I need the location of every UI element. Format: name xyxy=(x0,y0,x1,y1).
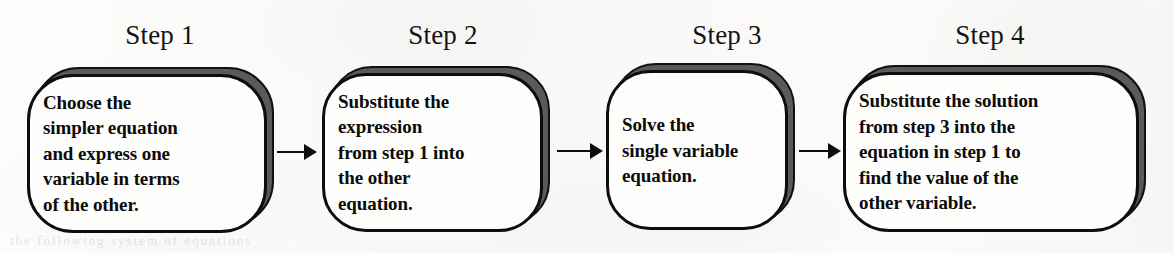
step-title-3: Step 3 xyxy=(692,22,761,49)
step-node-1-line: simpler equation xyxy=(43,115,256,141)
step-title-2: Step 2 xyxy=(408,22,477,49)
step-node-2-line: Substitute the xyxy=(338,89,532,115)
step-node-3-body: Solve the single variable equation. xyxy=(606,70,788,230)
step-node-1-line: Choose the xyxy=(43,90,256,116)
step-node-4-line: from step 3 into the xyxy=(859,114,1128,140)
step-node-2-text: Substitute the expression from step 1 in… xyxy=(338,89,532,217)
arrow-step-2-to-3 xyxy=(557,143,603,159)
step-node-1-line: variable in terms xyxy=(43,166,256,192)
step-node-4-line: Substitute the solution xyxy=(859,88,1128,114)
step-node-3: Solve the single variable equation. xyxy=(606,70,788,230)
step-node-1: Choose the simpler equation and express … xyxy=(27,74,267,233)
step-title-4: Step 4 xyxy=(955,22,1024,49)
step-node-4-body: Substitute the solution from step 3 into… xyxy=(843,72,1139,232)
solving-by-substitution-flowchart: Step 1 Choose the simpler equation and e… xyxy=(0,0,1174,253)
step-node-3-line: single variable xyxy=(622,137,777,163)
step-node-2-line: equation. xyxy=(338,191,532,217)
arrowhead-right-icon xyxy=(828,143,841,159)
arrow-shaft xyxy=(277,151,304,153)
step-node-1-body: Choose the simpler equation and express … xyxy=(27,74,267,233)
step-node-4-line: find the value of the xyxy=(859,165,1128,191)
arrow-step-3-to-4 xyxy=(799,143,841,159)
step-node-3-line: equation. xyxy=(622,163,777,189)
step-node-1-text: Choose the simpler equation and express … xyxy=(43,90,256,218)
step-node-2-line: expression xyxy=(338,114,532,140)
arrow-shaft xyxy=(557,150,590,152)
step-node-3-text: Solve the single variable equation. xyxy=(622,112,777,189)
arrowhead-right-icon xyxy=(304,144,317,160)
step-node-4-text: Substitute the solution from step 3 into… xyxy=(859,88,1128,216)
step-node-1-line: of the other. xyxy=(43,192,256,218)
arrow-shaft xyxy=(799,150,828,152)
step-node-2-line: from step 1 into xyxy=(338,140,532,166)
arrowhead-right-icon xyxy=(590,143,603,159)
step-node-4-line: other variable. xyxy=(859,190,1128,216)
step-node-4-line: equation in step 1 to xyxy=(859,139,1128,165)
step-node-2-line: the other xyxy=(338,165,532,191)
step-node-2: Substitute the expression from step 1 in… xyxy=(322,73,543,232)
step-title-1: Step 1 xyxy=(125,22,194,49)
step-node-2-body: Substitute the expression from step 1 in… xyxy=(322,73,543,232)
step-node-3-line: Solve the xyxy=(622,112,777,138)
arrow-step-1-to-2 xyxy=(277,144,317,160)
step-node-1-line: and express one xyxy=(43,141,256,167)
step-node-4: Substitute the solution from step 3 into… xyxy=(843,72,1139,232)
